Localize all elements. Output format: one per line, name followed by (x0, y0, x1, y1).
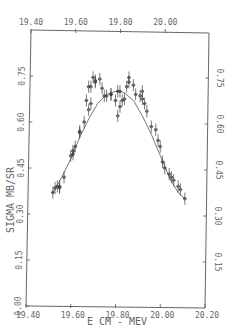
x-tick-label: 20.20 (195, 311, 219, 320)
y-tick-label: 0.45 (17, 158, 26, 177)
x-tick-top-label: 19.60 (64, 18, 88, 27)
y-axis-label: SIGMA MB/SR (5, 166, 16, 233)
y-tick-label: 0.15 (15, 250, 24, 269)
data-points (51, 71, 187, 204)
y-tick-right-label: 0.30 (213, 206, 222, 225)
y-tick-right-label: 0.45 (214, 160, 223, 179)
y-tick-right-label: 0.75 (215, 68, 224, 87)
x-tick-top-label: 19.40 (19, 18, 43, 27)
y-tick-label: 0.00 (14, 296, 23, 315)
y-ticks-left: 0.000.150.300.450.600.75 (14, 66, 33, 315)
x-axis-label: E CM - MEV (87, 316, 147, 327)
y-tick-label: 0.75 (18, 66, 27, 85)
y-tick-label: 0.30 (16, 204, 25, 223)
y-axis-right (205, 33, 209, 308)
x-tick-label: 20.00 (150, 311, 174, 320)
x-tick-top-label: 20.00 (153, 18, 177, 27)
x-axis-top (31, 30, 209, 33)
frame (26, 30, 209, 308)
y-tick-label: 0.60 (17, 112, 26, 131)
y-tick-right-label: 0.60 (215, 114, 224, 133)
chart-plot: 19.4019.6019.8020.0020.20 19.4019.6019.8… (0, 0, 234, 333)
x-tick-label: 19.60 (61, 311, 85, 320)
x-tick-top-label: 19.80 (108, 18, 132, 27)
y-tick-right-label: 0.15 (213, 252, 222, 271)
